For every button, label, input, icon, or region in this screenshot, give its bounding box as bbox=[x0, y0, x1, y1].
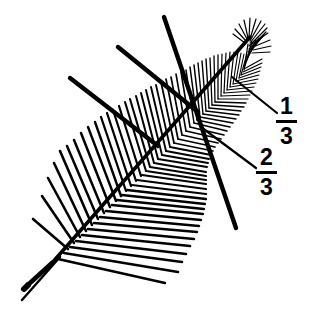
label-two-thirds-denominator: 3 bbox=[258, 175, 275, 199]
label-one-third-numerator: 1 bbox=[278, 95, 295, 119]
label-two-thirds: 2 3 bbox=[256, 146, 277, 199]
label-one-third: 1 3 bbox=[276, 95, 297, 148]
label-one-third-denominator: 3 bbox=[278, 124, 295, 148]
label-two-thirds-numerator: 2 bbox=[258, 146, 275, 170]
figure-root: 1 3 2 3 bbox=[0, 0, 314, 321]
